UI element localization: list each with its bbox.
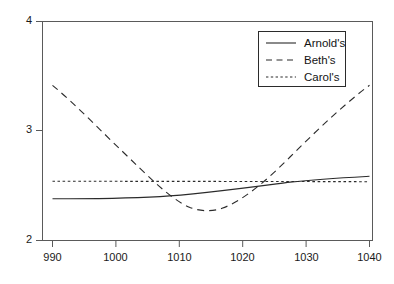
x-tick-label-1040: 1040 [348, 252, 391, 263]
y-tick-label-4: 4 [10, 15, 32, 26]
x-tick-label-1030: 1030 [285, 252, 328, 263]
y-tick-label-2: 2 [10, 234, 32, 245]
series-lines [53, 85, 370, 210]
legend-label-carols: Carol's [304, 71, 339, 83]
legend-swatch-solid-icon [266, 38, 296, 48]
legend-entry-carols: Carol's [259, 68, 345, 85]
legend-entry-arnolds: Arnold's [259, 34, 345, 51]
legend-swatch-dotted-icon [266, 72, 296, 82]
y-axis-ticks [36, 22, 43, 241]
legend-entry-beths: Beth's [259, 51, 345, 68]
x-tick-label-1000: 1000 [94, 252, 137, 263]
chart-legend: Arnold's Beth's Carol's [258, 31, 346, 87]
x-tick-label-1020: 1020 [221, 252, 264, 263]
legend-swatch-dashed-icon [266, 55, 296, 65]
chart-figure: 4 3 2 990 1000 1010 1020 1030 1040 Arnol… [0, 0, 394, 284]
legend-label-arnolds: Arnold's [304, 37, 345, 49]
series-line-arnolds [53, 176, 370, 199]
y-tick-label-3: 3 [10, 124, 32, 135]
x-axis-ticks [53, 241, 370, 248]
x-tick-label-1010: 1010 [158, 252, 201, 263]
legend-label-beths: Beth's [304, 54, 336, 66]
x-tick-label-990: 990 [31, 252, 74, 263]
